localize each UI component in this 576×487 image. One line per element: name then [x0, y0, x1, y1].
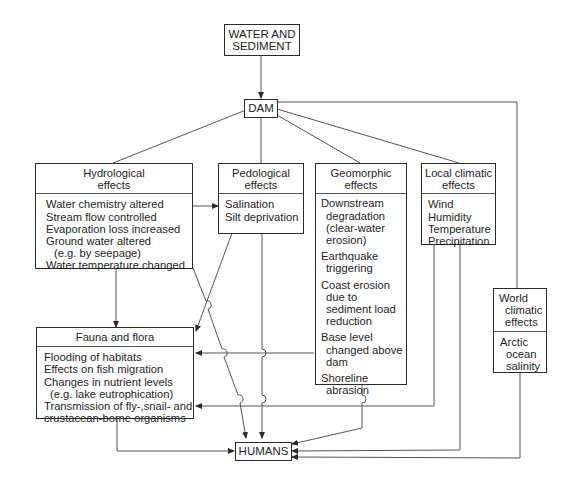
- pedological-title-1: Pedological: [221, 167, 301, 179]
- humans-label: HUMANS: [239, 445, 289, 457]
- list-item: Water temperature changed: [46, 259, 186, 271]
- list-item: (clear-water: [321, 222, 400, 234]
- geomorphic-title-2: effects: [318, 179, 404, 191]
- list-item: (e.g. lake eutrophication): [44, 388, 187, 400]
- water-and-sediment-box: WATER AND SEDIMENT: [224, 24, 300, 56]
- list-item: Temperature: [428, 223, 489, 235]
- hydrological-title-1: Hydrological: [38, 167, 190, 179]
- geomorphic-group: Earthquake triggering: [321, 250, 400, 274]
- local-climatic-title-2: effects: [424, 179, 493, 191]
- list-item: Flooding of habitats: [44, 351, 187, 363]
- list-item: triggering: [321, 262, 400, 274]
- list-item: Changes in nutrient levels: [44, 376, 187, 388]
- hydrological-title-2: effects: [38, 179, 190, 191]
- list-item: due to: [321, 291, 400, 303]
- list-item: reduction: [321, 315, 400, 327]
- list-item: Stream flow controlled: [46, 211, 186, 223]
- geomorphic-group: Coast erosion due to sediment load reduc…: [321, 279, 400, 328]
- local-climatic-effects-box: Local climatic effects Wind Humidity Tem…: [421, 163, 496, 245]
- local-climatic-header: Local climatic effects: [422, 164, 495, 194]
- pedological-effects-box: Pedological effects Salination Silt depr…: [218, 163, 304, 234]
- line-dam-to-hydrological: [113, 110, 246, 163]
- list-item: sediment load: [321, 303, 400, 315]
- list-item: ocean: [500, 348, 540, 360]
- source-line-2: SEDIMENT: [228, 40, 295, 53]
- fauna-flora-title: Fauna and flora: [39, 331, 191, 343]
- list-item: Silt deprivation: [225, 211, 297, 223]
- list-item: Humidity: [428, 211, 489, 223]
- list-item: (e.g. by seepage): [46, 247, 186, 259]
- list-item: dam: [321, 356, 400, 368]
- list-item: Precipitation: [428, 235, 489, 247]
- list-item: changed above: [321, 344, 400, 356]
- geomorphic-title-1: Geomorphic: [318, 167, 404, 179]
- dam-label: DAM: [248, 102, 274, 114]
- fauna-flora-header: Fauna and flora: [37, 328, 193, 347]
- list-item: Ground water altered: [46, 235, 186, 247]
- list-item: Base level: [321, 331, 400, 343]
- list-item: degradation: [321, 210, 400, 222]
- list-item: Coast erosion: [321, 279, 400, 291]
- list-item: salinity: [500, 360, 540, 372]
- list-item: Water chemistry altered: [46, 198, 186, 210]
- source-line-1: WATER AND: [228, 28, 295, 41]
- list-item: abrasion: [321, 384, 400, 396]
- pedological-header: Pedological effects: [219, 164, 303, 194]
- list-item: Downstream: [321, 197, 400, 209]
- dam-box: DAM: [244, 99, 278, 118]
- list-item: Wind: [428, 198, 489, 210]
- world-climatic-title-3: effects: [499, 316, 544, 328]
- list-item: Effects on fish migration: [44, 363, 187, 375]
- world-climatic-title-2: climatic: [499, 304, 544, 316]
- geomorphic-group: Base level changed above dam: [321, 331, 400, 368]
- pedological-title-2: effects: [221, 179, 301, 191]
- geomorphic-effects-box: Geomorphic effects Downstream degradatio…: [315, 163, 407, 385]
- list-item: crustacean-borne organisms: [44, 412, 187, 424]
- hydrological-header: Hydrological effects: [36, 164, 192, 194]
- list-item: erosion): [321, 234, 400, 246]
- list-item: Evaporation loss increased: [46, 223, 186, 235]
- hydrological-effects-box: Hydrological effects Water chemistry alt…: [35, 163, 193, 269]
- humans-box: HUMANS: [235, 442, 292, 461]
- line-dam-to-geomorphic: [277, 115, 360, 163]
- local-climatic-title-1: Local climatic: [424, 167, 493, 179]
- geomorphic-group: Downstream degradation (clear-water eros…: [321, 197, 400, 246]
- geomorphic-group: Shoreline abrasion: [321, 372, 400, 396]
- fauna-and-flora-box: Fauna and flora Flooding of habitats Eff…: [36, 327, 194, 419]
- line-pedological-to-humans: [262, 233, 266, 438]
- list-item: Arctic: [500, 336, 540, 348]
- world-climatic-header: World climatic effects: [494, 289, 546, 332]
- geomorphic-header: Geomorphic effects: [316, 164, 406, 194]
- list-item: Earthquake: [321, 250, 400, 262]
- world-climatic-effects-box: World climatic effects Arctic ocean sali…: [493, 288, 547, 373]
- world-climatic-title-1: World: [499, 292, 544, 304]
- list-item: Shoreline: [321, 372, 400, 384]
- arrow-pedological-to-fauna: [196, 233, 232, 331]
- line-dam-to-local-climatic: [277, 109, 459, 163]
- list-item: Transmission of fly-,snail- and: [44, 400, 187, 412]
- list-item: Salination: [225, 198, 297, 210]
